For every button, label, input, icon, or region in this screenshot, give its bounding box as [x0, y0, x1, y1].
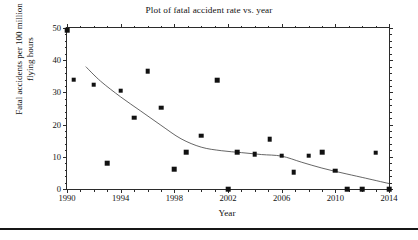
x-tick-minor-top: [215, 26, 216, 29]
x-tick-minor: [134, 189, 135, 192]
y-tick-minor-right: [389, 137, 392, 138]
x-tick-minor-top: [268, 26, 269, 29]
y-axis-title: Fatal accidents per 100 million flying h…: [14, 0, 36, 149]
x-tick-minor-top: [349, 26, 350, 29]
x-tick-label: 2006: [273, 193, 290, 203]
x-tick-minor: [268, 189, 269, 192]
data-point-marker: [360, 187, 365, 192]
y-tick-minor-right: [389, 170, 392, 171]
y-tick-minor: [65, 86, 68, 87]
x-tick-minor: [295, 189, 296, 192]
y-tick-major: [63, 60, 67, 61]
y-tick-minor: [65, 118, 68, 119]
y-tick-minor-right: [389, 131, 392, 132]
data-point-marker: [387, 187, 392, 192]
y-tick-major-right: [389, 157, 393, 158]
data-point-marker: [105, 161, 110, 166]
data-point-marker: [306, 153, 311, 158]
y-tick-minor: [65, 144, 68, 145]
x-tick-minor: [188, 189, 189, 192]
y-tick-minor: [65, 34, 68, 35]
y-tick-minor-right: [389, 54, 392, 55]
y-tick-minor: [65, 163, 68, 164]
x-tick-minor-top: [255, 26, 256, 29]
y-axis-title-line-2: flying hours: [25, 0, 36, 149]
y-tick-major-right: [389, 28, 393, 29]
y-tick-major: [63, 125, 67, 126]
y-tick-minor-right: [389, 80, 392, 81]
y-tick-label: 50: [52, 23, 61, 33]
data-point-marker: [267, 137, 272, 142]
data-point-marker: [226, 187, 231, 192]
y-tick-minor: [65, 80, 68, 81]
x-tick-minor-top: [107, 26, 108, 29]
x-tick-minor: [80, 189, 81, 192]
data-point-marker: [172, 167, 177, 172]
y-tick-minor-right: [389, 41, 392, 42]
y-tick-minor-right: [389, 34, 392, 35]
x-tick-minor-top: [201, 26, 202, 29]
data-point-marker: [92, 82, 97, 87]
x-tick-minor: [309, 189, 310, 192]
y-tick-minor: [65, 112, 68, 113]
x-tick-minor: [107, 189, 108, 192]
x-tick-label: 1994: [112, 193, 129, 203]
x-tick-minor-top: [148, 26, 149, 29]
data-point-marker: [215, 78, 220, 83]
y-tick-minor-right: [389, 176, 392, 177]
x-tick-minor: [255, 189, 256, 192]
x-tick-minor-top: [376, 26, 377, 29]
y-tick-minor-right: [389, 47, 392, 48]
x-tick-major-top: [282, 24, 283, 28]
data-point-marker: [199, 134, 204, 139]
x-tick-label: 2002: [219, 193, 236, 203]
y-tick-minor: [65, 54, 68, 55]
x-tick-minor-top: [241, 26, 242, 29]
data-point-marker: [71, 77, 76, 82]
data-point-marker: [132, 115, 137, 120]
x-tick-minor-top: [188, 26, 189, 29]
y-tick-major-right: [389, 125, 393, 126]
x-tick-major-top: [228, 24, 229, 28]
y-tick-label: 20: [52, 120, 61, 130]
x-tick-minor: [201, 189, 202, 192]
x-tick-minor-top: [322, 26, 323, 29]
data-point-marker: [279, 153, 284, 158]
x-tick-minor: [94, 189, 95, 192]
x-tick-minor: [241, 189, 242, 192]
y-tick-minor-right: [389, 144, 392, 145]
y-tick-minor-right: [389, 163, 392, 164]
data-point-marker: [333, 168, 338, 173]
chart-title: Plot of fatal accident rate vs. year: [0, 5, 418, 15]
x-tick-minor: [161, 189, 162, 192]
y-tick-minor: [65, 137, 68, 138]
y-tick-minor: [65, 73, 68, 74]
y-tick-label: 40: [52, 55, 61, 65]
x-tick-label: 2010: [327, 193, 344, 203]
y-tick-minor: [65, 170, 68, 171]
y-tick-minor: [65, 150, 68, 151]
y-tick-major: [63, 157, 67, 158]
y-tick-minor: [65, 47, 68, 48]
x-tick-minor: [322, 189, 323, 192]
data-point-marker: [253, 152, 258, 157]
y-tick-minor-right: [389, 99, 392, 100]
data-point-marker: [184, 150, 189, 155]
x-tick-minor-top: [362, 26, 363, 29]
trend-line-layer: [67, 28, 389, 189]
data-point-marker: [235, 150, 240, 155]
data-point-marker: [65, 28, 70, 33]
y-tick-major-right: [389, 60, 393, 61]
y-tick-minor: [65, 67, 68, 68]
y-tick-minor: [65, 176, 68, 177]
x-tick-label: 1998: [166, 193, 183, 203]
x-tick-major-top: [121, 24, 122, 28]
x-tick-major-top: [335, 24, 336, 28]
y-tick-minor: [65, 131, 68, 132]
y-tick-minor: [65, 105, 68, 106]
x-tick-minor: [215, 189, 216, 192]
footer-divider: [0, 228, 418, 230]
data-point-marker: [373, 150, 378, 155]
x-tick-minor-top: [80, 26, 81, 29]
y-tick-minor: [65, 41, 68, 42]
